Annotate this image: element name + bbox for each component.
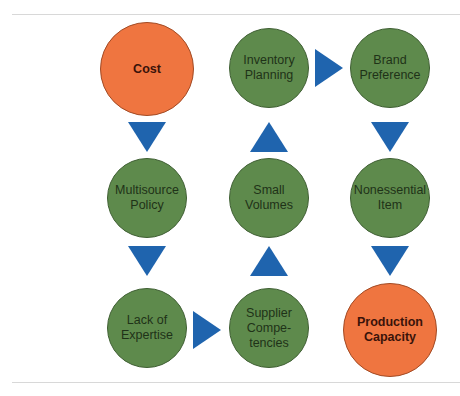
node-production-capacity: Production Capacity	[343, 283, 437, 377]
top-divider	[12, 14, 460, 15]
node-label: Production Capacity	[357, 315, 423, 345]
arrow-down-icon	[128, 246, 166, 276]
node-label: Small Volumes	[245, 183, 293, 213]
arrow-up-icon	[250, 122, 288, 152]
node-multisource-policy: Multisource Policy	[107, 158, 187, 238]
node-label: Brand Preference	[359, 53, 420, 83]
node-label: Cost	[133, 62, 161, 77]
node-brand-preference: Brand Preference	[350, 28, 430, 108]
node-lack-of-expertise: Lack of Expertise	[107, 288, 187, 368]
bottom-divider	[12, 382, 460, 383]
node-label: Multisource Policy	[115, 183, 179, 213]
node-supplier-competencies: Supplier Compe- tencies	[229, 288, 309, 368]
arrow-up-icon	[250, 246, 288, 276]
node-small-volumes: Small Volumes	[229, 158, 309, 238]
node-cost: Cost	[100, 22, 194, 116]
node-label: Lack of Expertise	[121, 313, 173, 343]
node-inventory-planning: Inventory Planning	[229, 28, 309, 108]
node-label: Nonessential Item	[354, 183, 426, 213]
node-nonessential-item: Nonessential Item	[350, 158, 430, 238]
arrow-down-icon	[371, 122, 409, 152]
node-label: Inventory Planning	[243, 53, 294, 83]
node-label: Supplier Compe- tencies	[246, 306, 292, 351]
arrow-right-icon	[193, 311, 221, 349]
arrow-right-icon	[315, 49, 343, 87]
arrow-down-icon	[128, 122, 166, 152]
arrow-down-icon	[371, 246, 409, 276]
